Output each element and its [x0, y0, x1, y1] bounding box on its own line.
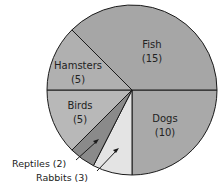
- label-fish-name: Fish: [142, 39, 161, 50]
- label-dogs-name: Dogs: [152, 113, 177, 124]
- label-hamsters-name: Hamsters: [54, 60, 102, 71]
- label-reptiles: Reptiles (2): [12, 158, 66, 169]
- label-fish-value: (15): [142, 53, 163, 64]
- pie-chart: Fish (15) Hamsters (5) Birds (5) Dogs (1…: [0, 0, 219, 185]
- label-birds-name: Birds: [67, 100, 92, 111]
- label-birds-value: (5): [73, 114, 87, 125]
- label-hamsters-value: (5): [71, 74, 85, 85]
- label-rabbits: Rabbits (3): [36, 172, 88, 183]
- label-dogs-value: (10): [155, 127, 176, 138]
